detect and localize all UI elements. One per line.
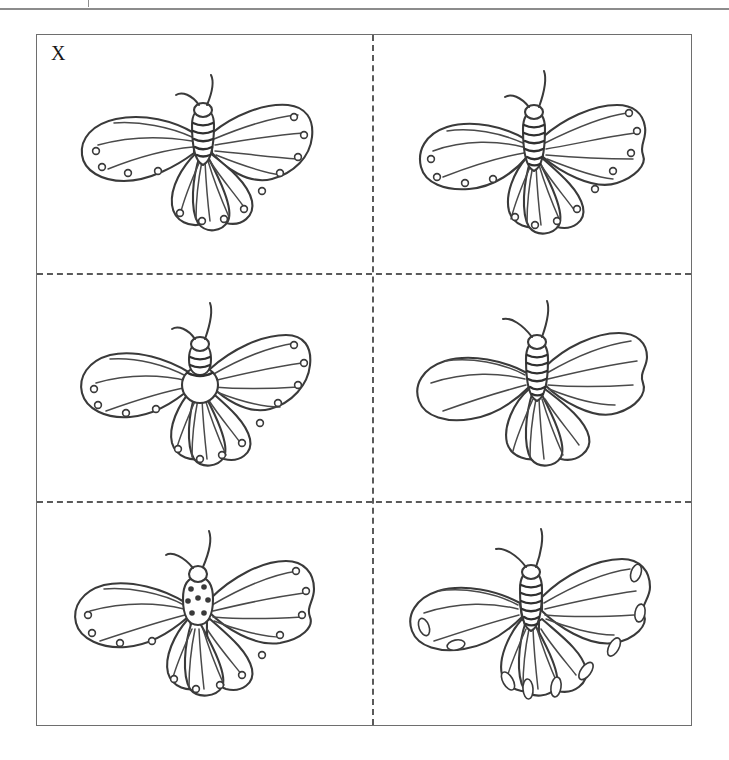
butterfly-illustration-5 [64,521,339,711]
specimen-cell-bottom-right [373,501,701,731]
butterfly-illustration-4 [405,293,670,483]
butterfly-illustration-6 [400,521,675,711]
specimen-cell-middle-right [373,273,701,503]
figure-frame: X [36,34,692,726]
butterfly-illustration-2 [407,61,667,251]
butterfly-illustration-1 [66,61,336,251]
specimen-cell-top-left [37,41,365,271]
butterfly-illustration-3 [66,293,336,483]
page-tick-mark [88,0,89,7]
specimen-cell-middle-left [37,273,365,503]
specimen-cell-bottom-left [37,501,365,731]
specimen-cell-top-right [373,41,701,271]
top-horizontal-rule [0,8,729,10]
